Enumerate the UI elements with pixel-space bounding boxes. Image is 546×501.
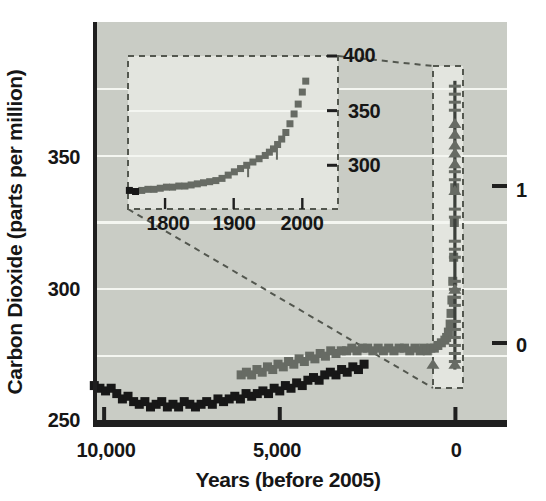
spike-dash-marker [449, 216, 461, 219]
inset-point-gray [291, 110, 298, 117]
inset-x-tick-label-1800: 1800 [147, 212, 190, 234]
inset-point-gray [157, 185, 164, 192]
spike-dash-marker [449, 280, 461, 283]
x-tick-label-5000: 5,000 [253, 439, 301, 461]
inset-y-tick [327, 109, 337, 112]
inset-point-gray [278, 136, 285, 143]
inset-point-gray [200, 179, 207, 186]
spike-dash-marker [449, 101, 461, 104]
y-tick-label-250: 250 [48, 409, 80, 431]
inset-y-tick-label-350: 350 [348, 100, 380, 122]
spike-dash-marker [449, 93, 461, 96]
gridline [95, 288, 507, 290]
inset-point-gray [256, 155, 263, 162]
spike-dash-marker [449, 170, 461, 173]
y-axis-title: Carbon Dioxide (parts per million) [3, 70, 26, 395]
inset-x-tick-label-1900: 1900 [213, 212, 256, 234]
inset-point-gray [299, 89, 306, 96]
inset-gridline [128, 110, 338, 112]
right-axis-tick [492, 341, 507, 345]
y-axis-line [93, 22, 97, 427]
inset-x-tick [164, 198, 166, 209]
inset-y-tick-label-300: 300 [348, 154, 380, 176]
inset-point-gray [169, 184, 176, 191]
inset-point-dark [126, 187, 133, 194]
x-tick-label-10000: 10,000 [77, 439, 136, 461]
inset-point-gray [219, 175, 226, 182]
inset-point-gray [194, 180, 201, 187]
spike-dash-marker [449, 304, 461, 307]
inset-x-tick [301, 198, 303, 209]
inset-point-gray [144, 186, 151, 193]
inset-point-gray [151, 186, 158, 193]
inset-point-gray [175, 183, 182, 190]
spike-dash-marker [449, 240, 461, 243]
x-axis-tick [453, 407, 457, 420]
x-axis-line [93, 420, 507, 427]
right-tick-label-1: 1 [516, 179, 527, 201]
inset-point-gray [181, 183, 188, 190]
inset-point-gray [302, 78, 309, 85]
inset-gridline [128, 155, 338, 157]
inset-point-gray [188, 181, 195, 188]
inset-chart [126, 55, 338, 210]
inset-point-gray [249, 159, 256, 166]
inset-point-gray [206, 178, 213, 185]
inset-point-dark [132, 188, 139, 195]
co2-figure-svg: Carbon Dioxide (parts per million) Years… [0, 0, 546, 501]
x-axis-tick [278, 407, 282, 420]
right-axis-tick [492, 184, 507, 188]
y-tick-label-350: 350 [48, 146, 80, 168]
spike-dash-marker [449, 85, 461, 88]
spike-dash-marker [449, 178, 461, 181]
inset-x-tick [232, 198, 234, 209]
spike-dash-marker [449, 296, 461, 299]
inset-point-gray [212, 177, 219, 184]
x-tick-label-0: 0 [451, 439, 462, 461]
spike-dash-marker [449, 248, 461, 251]
inset-x-tick-label-2000: 2000 [281, 212, 324, 234]
spike-dash-marker [449, 352, 461, 355]
inset-point-gray [282, 129, 289, 136]
inset-point-gray [138, 187, 145, 194]
inset-point-gray [231, 168, 238, 175]
spike-dash-marker [449, 208, 461, 211]
spike-dash-marker [449, 109, 461, 112]
co2-concentration-figure: Carbon Dioxide (parts per million) Years… [0, 0, 546, 501]
spike-dash-marker [449, 256, 461, 259]
inset-y-tick-label-400: 400 [343, 44, 375, 66]
spike-dash-marker [449, 344, 461, 347]
x-axis-tick [102, 407, 106, 420]
spike-dash-marker [449, 320, 461, 323]
y-tick-label-300: 300 [48, 278, 80, 300]
inset-y-tick [327, 55, 337, 58]
x-axis-title: Years (before 2005) [195, 468, 380, 491]
data-point-dark [360, 360, 369, 369]
inset-point-gray [225, 172, 232, 179]
right-tick-label-0: 0 [516, 334, 527, 356]
spike-dash-marker [449, 336, 461, 339]
inset-point-gray [237, 165, 244, 172]
inset-point-gray [163, 184, 170, 191]
spike-dash-marker [449, 328, 461, 331]
inset-point-gray [243, 162, 250, 169]
inset-y-tick [327, 164, 337, 167]
inset-point-gray [295, 101, 302, 108]
inset-point-gray [286, 120, 293, 127]
